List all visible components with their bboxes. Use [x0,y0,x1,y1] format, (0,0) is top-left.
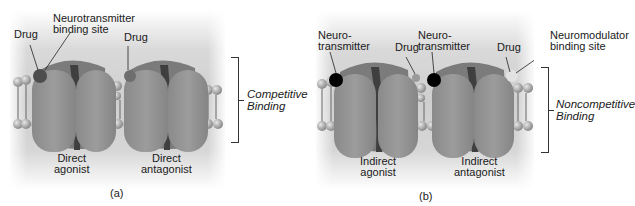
label-direct-agonist: Direct agonist [54,153,89,175]
panel-a-illustration [10,10,225,190]
panel-a: Drug Neurotransmitter binding site Drug … [10,10,225,190]
drug-antagonist-icon [124,70,136,82]
label-indirect-antagonist: Indirect antagonist [454,156,505,178]
panel-b: Neuro- transmitter Drug Neuro- transmitt… [316,10,534,190]
label-noncompetitive-binding: Noncompetitive Binding [556,98,635,122]
label-drug-indirect-antagonist: Drug [497,42,521,53]
neurotransmitter-icon [427,73,441,87]
label-drug-agonist: Drug [14,29,38,40]
receptor-direct-antagonist-icon [124,60,208,152]
bracket-competitive [231,57,239,143]
label-drug-indirect-agonist: Drug [395,42,419,53]
caption-a: (a) [110,187,123,199]
label-neuromodulator-binding-site: Neuromodulator binding site [550,30,629,52]
label-competitive-binding: Competitive Binding [247,88,308,112]
bracket-noncompetitive [541,67,549,153]
label-indirect-agonist: Indirect agonist [360,156,396,178]
drug-agonist-icon [33,69,47,83]
caption-b: (b) [419,190,432,202]
label-neurotransmitter-left: Neuro- transmitter [318,30,370,52]
label-direct-antagonist: Direct antagonist [141,153,192,175]
drug-indirect-agonist-icon [412,74,420,82]
label-neurotransmitter-right: Neuro- transmitter [418,30,470,52]
label-neurotransmitter-binding-site: Neurotransmitter binding site [53,13,135,35]
receptor-direct-agonist-icon [32,60,116,152]
drug-neuromodulator-icon [506,70,518,82]
neurotransmitter-icon [329,73,343,87]
label-drug-antagonist: Drug [124,32,148,43]
receptor-indirect-antagonist-icon [427,62,518,158]
receptor-indirect-agonist-icon [329,62,420,158]
